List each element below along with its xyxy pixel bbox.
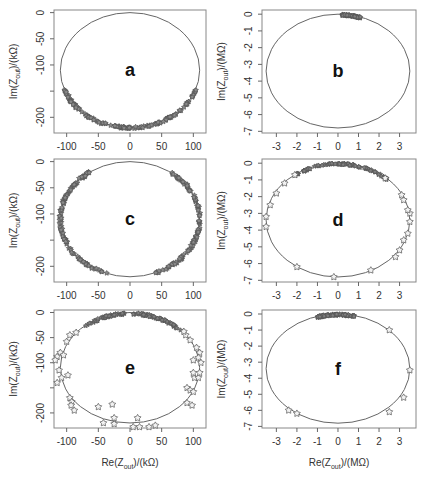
y-tick-label: -7 (243, 422, 254, 431)
x-tick-label: 3 (397, 141, 403, 152)
y-tick-label: -5 (243, 389, 254, 398)
y-tick-label: -5 (243, 242, 254, 251)
y-tick-label: -3 (243, 209, 254, 218)
x-tick-label: -50 (91, 290, 106, 301)
x-tick-label: -1 (313, 141, 322, 152)
x-tick-label: 1 (356, 290, 362, 301)
x-tick-label: -100 (57, 141, 77, 152)
x-tick-label: 0 (335, 290, 341, 301)
y-tick-label: -6 (243, 405, 254, 414)
y-tick-label: -6 (243, 110, 254, 119)
panel-label: a (125, 60, 136, 80)
x-tick-label: 3 (397, 290, 403, 301)
y-tick-label: -2 (243, 192, 254, 201)
y-tick-label: 0 (35, 9, 46, 15)
y-tick-label: -4 (243, 373, 254, 382)
panel-label: d (332, 210, 343, 230)
x-tick-label: -3 (272, 436, 281, 447)
x-tick-label: 0 (335, 436, 341, 447)
y-tick-label: -200 (35, 402, 46, 422)
y-tick-label: -50 (35, 330, 46, 345)
x-tick-label: 2 (376, 436, 382, 447)
x-tick-label: -3 (272, 290, 281, 301)
x-axis: -100-50050100 (57, 428, 202, 447)
x-axis: -3-2-10123 (272, 282, 403, 301)
y-tick-label: -3 (243, 357, 254, 366)
x-tick-label: -100 (57, 436, 77, 447)
x-axis: -100-50050100 (57, 133, 202, 152)
y-tick-label: -2 (243, 43, 254, 52)
panel-label: c (125, 209, 135, 229)
panel-d: -3-2-101230-1-2-3-4-5-6-7Im(Zout)/(MΩ)d (216, 159, 416, 301)
x-tick-label: -100 (57, 290, 77, 301)
y-tick-label: -200 (35, 107, 46, 127)
panel-f: -3-2-101230-1-2-3-4-5-6-7Im(Zout)/(MΩ)Re… (216, 310, 416, 470)
x-tick-label: -1 (313, 290, 322, 301)
x-axis: -100-50050100 (57, 282, 202, 301)
y-tick-label: 0 (243, 311, 254, 317)
y-axis: 0-50-100-200 (35, 158, 54, 276)
y-tick-label: -1 (243, 26, 254, 35)
y-tick-label: -6 (243, 259, 254, 268)
x-tick-label: 3 (397, 436, 403, 447)
x-tick-label: -1 (313, 436, 322, 447)
x-tick-label: 0 (127, 290, 133, 301)
y-tick-label: -7 (243, 126, 254, 135)
y-tick-label: -50 (35, 180, 46, 195)
y-tick-label: 0 (35, 158, 46, 164)
x-tick-label: -50 (91, 436, 106, 447)
x-tick-label: 100 (185, 141, 202, 152)
y-tick-label: 0 (243, 11, 254, 17)
x-axis-title: Re(Zout)/(MΩ) (309, 457, 370, 470)
x-axis-title: Re(Zout)/(kΩ) (101, 457, 158, 470)
x-tick-label: -2 (292, 141, 301, 152)
y-tick-label: -7 (243, 275, 254, 284)
y-tick-label: 0 (243, 160, 254, 166)
y-axis-title: Im(Zout)/(kΩ) (8, 44, 21, 100)
x-tick-label: -2 (292, 290, 301, 301)
y-tick-label: -4 (243, 76, 254, 85)
x-tick-label: 50 (156, 436, 168, 447)
panel-label: e (125, 358, 135, 378)
x-tick-label: 1 (356, 141, 362, 152)
x-tick-label: 100 (185, 290, 202, 301)
x-tick-label: 50 (156, 290, 168, 301)
x-tick-label: -3 (272, 141, 281, 152)
panel-label: b (332, 61, 343, 81)
panel-c: -100-500501000-50-100-200Im(Zout)/(kΩ)c (8, 158, 206, 301)
panel-label: f (335, 359, 342, 379)
y-axis: 0-50-100-200 (35, 309, 54, 423)
data-points (340, 12, 363, 20)
y-tick-label: -1 (243, 325, 254, 334)
x-tick-label: 2 (376, 141, 382, 152)
y-axis-title: Im(Zout)/(kΩ) (8, 193, 21, 249)
y-axis: 0-1-2-3-4-5-6-7 (243, 311, 262, 431)
y-axis: 0-50-100-200 (35, 9, 54, 127)
x-tick-label: 0 (127, 141, 133, 152)
data-points (62, 87, 198, 130)
y-axis-title: Im(Zout)/(MΩ) (216, 42, 229, 101)
y-tick-label: -3 (243, 60, 254, 69)
x-tick-label: 50 (156, 141, 168, 152)
y-tick-label: -2 (243, 341, 254, 350)
data-points (285, 312, 413, 417)
panel-a: -100-500501000-50-100-200Im(Zout)/(kΩ)a (8, 9, 206, 152)
x-tick-label: 100 (185, 436, 202, 447)
y-tick-label: -50 (35, 31, 46, 46)
y-axis-title: Im(Zout)/(MΩ) (216, 340, 229, 399)
y-tick-label: -100 (35, 352, 46, 372)
x-tick-label: -2 (292, 436, 301, 447)
y-axis-title: Im(Zout)/(MΩ) (216, 191, 229, 250)
figure-canvas: -100-500501000-50-100-200Im(Zout)/(kΩ)a-… (0, 0, 427, 483)
y-tick-label: -4 (243, 225, 254, 234)
panel-e: -100-500501000-50-100-200Im(Zout)/(kΩ)Re… (8, 309, 206, 470)
y-tick-label: -5 (243, 93, 254, 102)
x-tick-label: -50 (91, 141, 106, 152)
y-tick-label: 0 (35, 309, 46, 315)
y-tick-label: -1 (243, 175, 254, 184)
x-tick-label: 1 (356, 436, 362, 447)
x-tick-label: 0 (335, 141, 341, 152)
y-axis-title: Im(Zout)/(kΩ) (8, 341, 21, 397)
y-tick-label: -100 (35, 204, 46, 224)
x-axis: -3-2-10123 (272, 428, 403, 447)
